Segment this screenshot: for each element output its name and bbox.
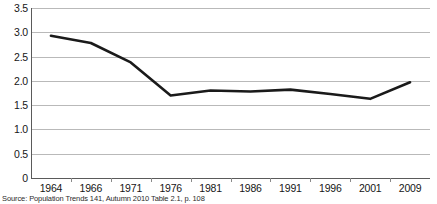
x-axis-tick-label: 2009 [390, 180, 430, 196]
x-axis-tick-label: 1991 [270, 180, 310, 196]
data-series-layer [0, 0, 437, 186]
source-caption: Source: Population Trends 141, Autumn 20… [2, 194, 205, 203]
plot-area: 3.53.02.52.01.51.00.50 19641966197119761… [0, 0, 437, 186]
x-axis-tick-label: 1986 [231, 180, 271, 196]
fertility-rate-line-chart: 3.53.02.52.01.51.00.50 19641966197119761… [0, 0, 437, 204]
series-line-total-fertility-rate [51, 36, 410, 99]
x-axis-tick-label: 2001 [350, 180, 390, 196]
x-axis-tick-label: 1996 [310, 180, 350, 196]
